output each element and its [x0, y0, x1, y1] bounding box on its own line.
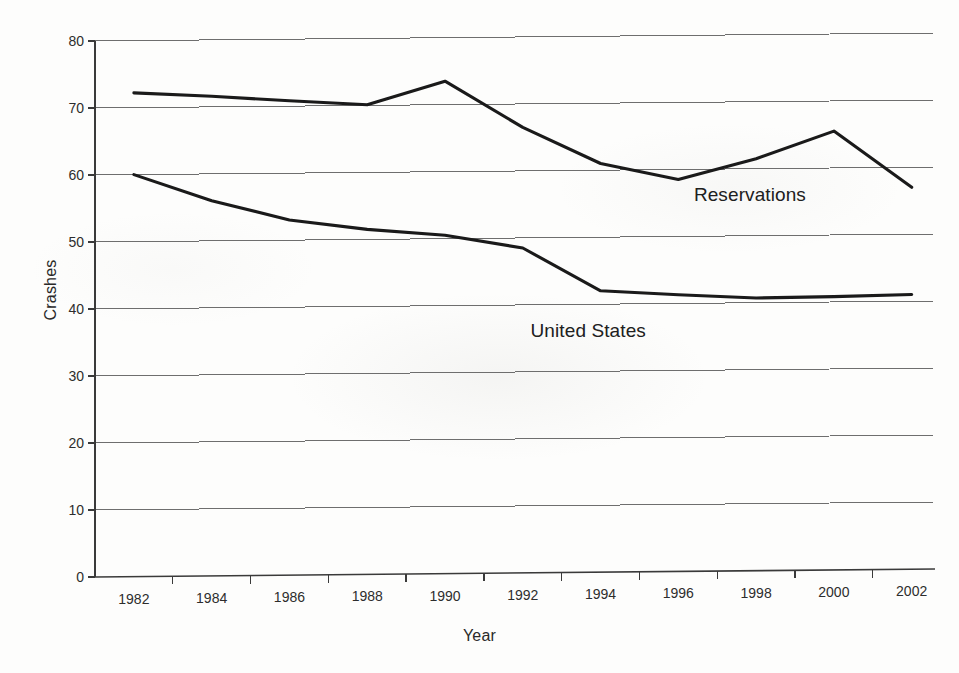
- x-tick-label: 1988: [352, 588, 383, 604]
- gridline: [95, 234, 935, 242]
- x-tick-label: 1994: [585, 586, 616, 602]
- y-axis-title: Crashes: [42, 125, 60, 455]
- chart-figure: 01020304050607080 1982198419861988199019…: [0, 0, 959, 673]
- line-chart-plot: [0, 0, 959, 673]
- gridlines-group: [95, 33, 935, 510]
- gridline: [95, 167, 935, 175]
- y-tick-label: 0: [40, 569, 84, 585]
- x-tick-label: 1986: [274, 589, 305, 605]
- y-tick-marks-group: [88, 41, 95, 577]
- series-label-united-states: United States: [531, 320, 646, 342]
- x-tick-label: 1982: [118, 591, 149, 607]
- x-tick-label: 1992: [507, 587, 538, 603]
- x-axis-line: [95, 569, 935, 577]
- x-tick-label: 1996: [663, 585, 694, 601]
- y-tick-label: 70: [40, 100, 84, 116]
- gridline: [95, 435, 935, 443]
- x-tick-label: 1984: [196, 590, 227, 606]
- series-label-reservations: Reservations: [694, 184, 806, 206]
- x-tick-label: 1990: [429, 588, 460, 604]
- x-tick-label: 2002: [896, 583, 927, 599]
- gridline: [95, 33, 935, 41]
- y-tick-label: 10: [40, 502, 84, 518]
- x-tick-label: 2000: [818, 584, 849, 600]
- gridline: [95, 502, 935, 510]
- x-tick-label: 1998: [741, 585, 772, 601]
- y-tick-label: 80: [40, 33, 84, 49]
- gridline: [95, 100, 935, 108]
- x-tick-marks-group: [173, 570, 873, 585]
- gridline: [95, 368, 935, 376]
- gridline: [95, 301, 935, 309]
- x-axis-title: Year: [0, 627, 959, 645]
